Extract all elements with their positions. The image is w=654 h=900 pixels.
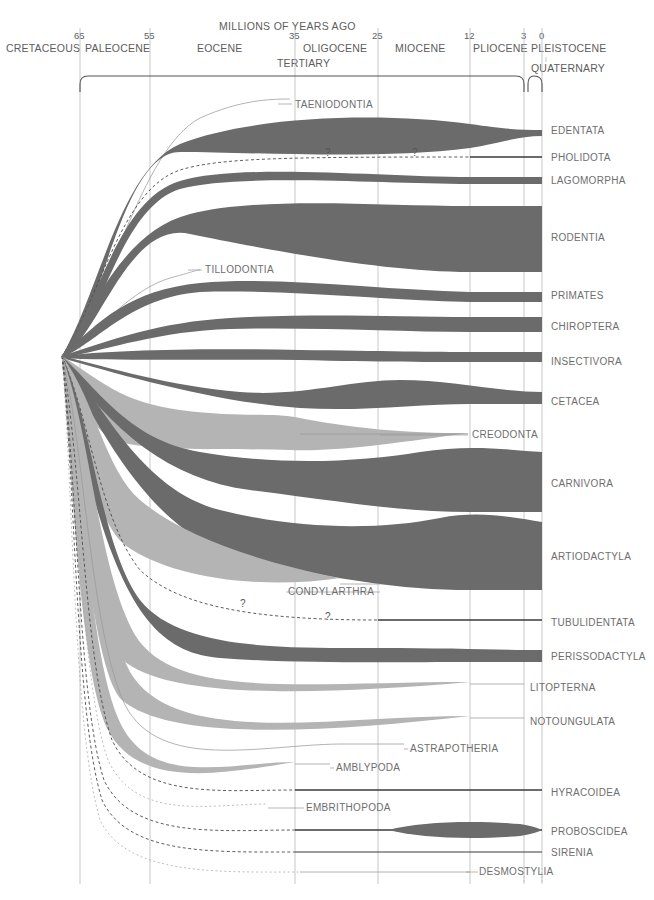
uncertainty-mark-3: ? <box>240 598 246 609</box>
order-label-astrapotheria: ASTRAPOTHERIA <box>410 743 498 754</box>
order-label-hyracoidea: HYRACOIDEA <box>551 787 620 798</box>
order-label-primates: PRIMATES <box>551 290 604 301</box>
phylogeny-figure: MILLIONS OF YEARS AGO 65 55 35 25 12 3 0… <box>0 0 654 900</box>
order-label-rodentia: RODENTIA <box>551 232 605 243</box>
order-label-proboscidea: PROBOSCIDEA <box>551 826 628 837</box>
order-label-lagomorpha: LAGOMORPHA <box>551 175 626 186</box>
order-label-cetacea: CETACEA <box>551 396 600 407</box>
order-label-sirenia: SIRENIA <box>551 847 593 858</box>
order-label-carnivora: CARNIVORA <box>551 478 613 489</box>
order-label-insectivora: INSECTIVORA <box>551 356 622 367</box>
order-label-tubulidentata: TUBULIDENTATA <box>551 617 635 628</box>
order-label-tillodontia: TILLODONTIA <box>205 264 274 275</box>
order-label-chiroptera: CHIROPTERA <box>551 321 620 332</box>
order-label-embrithopoda: EMBRITHOPODA <box>306 802 391 813</box>
order-label-pholidota: PHOLIDOTA <box>551 152 611 163</box>
uncertainty-mark-1: ? <box>325 147 331 158</box>
order-label-notoungulata: NOTOUNGULATA <box>530 716 615 727</box>
order-label-taeniodontia: TAENIODONTIA <box>295 99 373 110</box>
order-label-amblypoda: AMBLYPODA <box>336 762 400 773</box>
order-label-artiodactyla: ARTIODACTYLA <box>551 551 631 562</box>
order-label-desmostylia: DESMOSTYLIA <box>479 866 553 877</box>
order-label-litoperna: LITOPTERNA <box>530 682 596 693</box>
lineage-proboscidea-spindle <box>388 822 542 838</box>
order-label-perissodactyla: PERISSODACTYLA <box>551 651 646 662</box>
order-label-condylarthra: CONDYLARTHRA <box>288 586 374 597</box>
order-label-edentata: EDENTATA <box>551 125 605 136</box>
uncertainty-mark-4: ? <box>325 611 331 622</box>
uncertainty-mark-2: ? <box>412 147 418 158</box>
order-label-creodonta: CREODONTA <box>472 429 538 440</box>
